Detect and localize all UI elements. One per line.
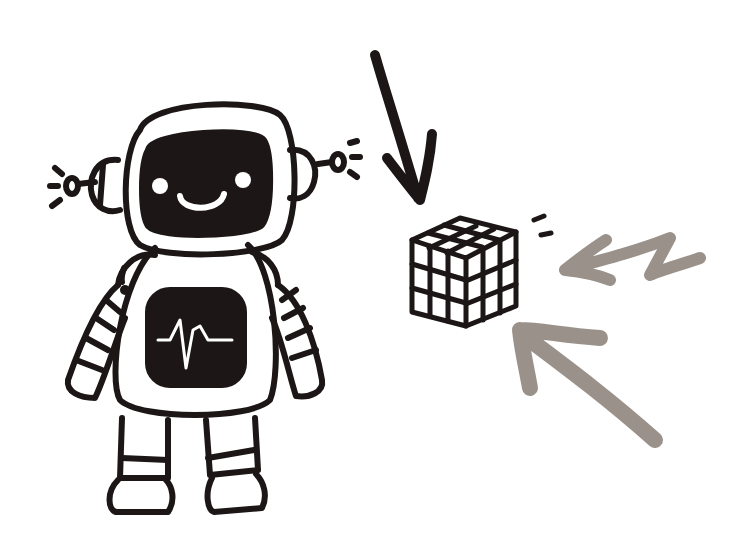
arrow-up-left-icon: [520, 330, 655, 440]
robot-arm-right: [272, 285, 322, 396]
illustration: [0, 0, 747, 556]
robot-icon: [50, 104, 360, 512]
robot-leg-right: [206, 418, 265, 512]
eye-left: [152, 178, 168, 194]
arrow-left-icon: [565, 238, 700, 280]
cube-sparks: [534, 216, 551, 235]
heartbeat-screen: [148, 290, 244, 385]
arrow-down-icon: [375, 55, 432, 200]
antenna-left: [50, 160, 120, 211]
robot-leg-left: [110, 418, 173, 512]
antenna-right: [290, 141, 360, 198]
eye-right: [235, 172, 251, 188]
cube-icon: [412, 218, 516, 326]
